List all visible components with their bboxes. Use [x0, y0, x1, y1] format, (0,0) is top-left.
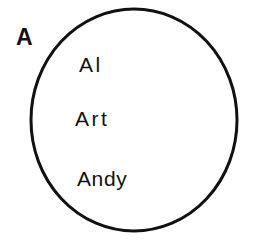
set-circle-A: [31, 9, 237, 231]
diagram-canvas: A Al Art Andy: [0, 0, 253, 247]
set-label-A: A: [16, 26, 33, 49]
set-circle-svg: [0, 0, 253, 247]
